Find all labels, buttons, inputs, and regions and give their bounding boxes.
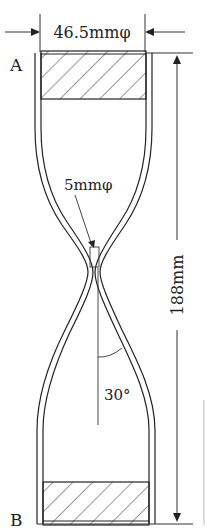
right-inner-wall	[95, 53, 149, 524]
specimen-body	[35, 53, 155, 524]
bottom-plug	[43, 482, 149, 525]
neck-diameter-annotation: 5mmφ	[64, 176, 113, 267]
top-plug	[41, 51, 146, 99]
end-label-b: B	[10, 510, 23, 530]
angle-arc	[98, 348, 122, 357]
top-diameter-dimension: 46.5mmφ	[5, 14, 185, 52]
specimen-diagram: 46.5mmφ A B 188mm 5mmφ	[0, 0, 205, 530]
neck-diameter-label: 5mmφ	[64, 176, 113, 194]
arrow-down-icon	[173, 513, 181, 522]
left-inner-wall	[41, 53, 93, 524]
right-outer-wall	[100, 53, 155, 524]
arrow-right-icon	[31, 28, 40, 36]
arrow-up-icon	[173, 55, 181, 64]
end-label-a: A	[9, 55, 23, 75]
length-label: 188mm	[168, 255, 187, 316]
arrow-left-icon	[145, 28, 154, 36]
angle-label: 30°	[104, 386, 131, 404]
length-dimension: 188mm	[168, 55, 187, 522]
angle-annotation: 30°	[98, 268, 131, 425]
top-diameter-label: 46.5mmφ	[53, 23, 130, 42]
